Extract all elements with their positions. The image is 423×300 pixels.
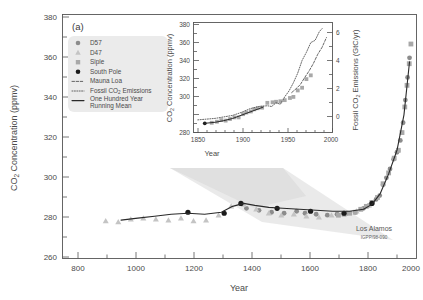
inset-data-point [271,100,275,104]
main-x-axis-label: Year [230,283,248,293]
inset-ytick-right-0: 0 [336,113,340,120]
data-point [165,217,171,222]
inset-data-point [309,73,313,77]
data-point [185,210,190,215]
data-point [178,215,184,220]
main-xtick-1800: 1800 [359,264,377,273]
inset-ytick-360: 360 [179,39,190,46]
legend: D57D47SipleSouth PoleMauna LoaFossil CO2… [68,36,168,112]
legend-circle-icon [76,41,81,46]
main-xtick-1400: 1400 [243,264,261,273]
inset-data-point [292,95,296,99]
co2-concentration-chart: 380 360 340 320 300 280 260 CO2 Concentr… [0,0,423,300]
data-point [314,212,319,217]
inset-xtick-1900: 1900 [236,136,251,143]
inset-data-point [305,77,309,81]
inset-plot: 380 360 340 320 300 280 CO2 Concentratio… [165,21,361,158]
inset-data-point [288,96,292,100]
inset-plot-frame [194,23,333,133]
data-point [409,42,414,47]
figure-container: 380 360 340 320 300 280 260 CO2 Concentr… [0,0,423,300]
legend-label: One Hundred Year [90,95,144,102]
credit-organization: Los Alamos [356,225,393,232]
legend-label: Siple [90,58,105,66]
main-ytick-260: 260 [44,253,58,262]
inset-ytick-380: 380 [179,21,190,28]
inset-ytick-340: 340 [179,57,190,64]
inset-ytick-right-6: 6 [336,29,340,36]
main-xtick-1000: 1000 [127,264,145,273]
main-xtick-1200: 1200 [185,264,203,273]
inset-data-point [265,101,269,105]
data-point [153,216,159,221]
main-y-axis-label: CO2 Concentration (ppmv) [9,85,20,191]
inset-ytick-right-4: 4 [336,57,340,64]
inset-data-point [300,86,304,90]
main-x-axis: 800 1000 1200 1400 1600 1800 2000 [71,252,420,273]
main-ytick-320: 320 [44,133,58,142]
main-xtick-800: 800 [71,264,85,273]
data-point [203,217,209,222]
main-ytick-280: 280 [44,213,58,222]
legend-label: D47 [90,49,102,56]
credit-report-number: IGPP/98-090 [361,235,388,240]
inset-y-axis-label-left: CO2 Concentration (ppmv) [165,33,175,122]
series-siple [336,42,413,218]
data-point [407,55,412,60]
main-ytick-340: 340 [44,93,58,102]
inset-ytick-320: 320 [179,75,190,82]
main-ytick-360: 360 [44,53,58,62]
main-ytick-300: 300 [44,173,58,182]
main-xtick-1600: 1600 [301,264,319,273]
inset-xtick-2000: 2000 [324,136,339,143]
legend-label-line2: Running Mean [90,102,132,110]
legend-circle-icon [76,70,81,75]
inset-xtick-1950: 1950 [281,136,296,143]
legend-square-icon [76,60,80,64]
inset-ytick-right-2: 2 [336,85,340,92]
inset-x-axis-label: Year [204,149,220,158]
data-point [244,206,249,211]
data-point [336,213,341,218]
inset-y-axis-label-right: Fossil CO2 Emissions (GtC/yr) [351,29,361,130]
legend-label: D57 [90,39,102,46]
inset-ytick-300: 300 [179,93,190,100]
main-ytick-380: 380 [44,13,58,22]
legend-label: South Pole [90,68,122,75]
inset-xtick-1850: 1850 [191,136,206,143]
main-y-axis: 380 360 340 320 300 280 260 [44,13,69,262]
inset-data-point [296,89,300,93]
main-xtick-2000: 2000 [402,264,420,273]
data-point [115,219,121,224]
inset-ytick-280: 280 [179,129,190,136]
panel-label: (a) [72,21,84,32]
legend-label: Mauna Loa [90,77,122,84]
data-point [103,218,109,223]
data-point [191,218,197,223]
